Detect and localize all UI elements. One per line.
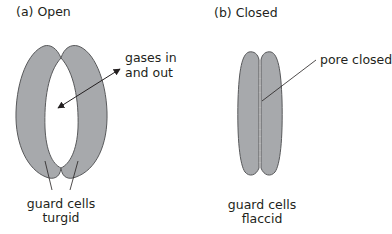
flaccid-label-line1: guard cells (222, 198, 302, 212)
pore-closed-label: pore closed (320, 53, 392, 67)
guard-cell-right-open (61, 46, 107, 179)
turgid-label-line2: turgid (21, 211, 101, 225)
turgid-label-line1: guard cells (21, 197, 101, 211)
guard-cell-left-closed (238, 52, 259, 175)
gases-label-line2: and out (125, 66, 173, 80)
guard-cell-left-open (16, 46, 61, 179)
flaccid-label-line2: flaccid (222, 212, 302, 226)
guard-cell-right-closed (261, 52, 282, 175)
panel-a-title: (a) Open (16, 5, 71, 19)
gases-label-line1: gases in (125, 51, 177, 65)
panel-b-title: (b) Closed (214, 6, 278, 20)
